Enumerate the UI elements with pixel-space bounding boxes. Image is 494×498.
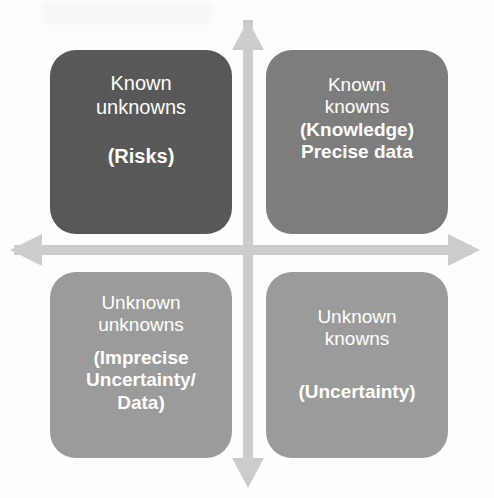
quadrant-unknown-unknowns: Unknown unknowns (Imprecise Uncertainty/… <box>50 272 232 458</box>
quadrant-label-parenthetical: (Imprecise <box>93 347 188 369</box>
quadrant-label-detail: Precise data <box>301 141 413 163</box>
quadrant-line: knowns <box>325 96 389 118</box>
quadrant-known-unknowns: Known unknowns (Risks) <box>50 50 232 234</box>
quadrant-label-parenthetical: Uncertainty/ <box>86 369 196 391</box>
quadrant-line: Known <box>328 74 386 96</box>
quadrant-line: unknowns <box>96 96 186 120</box>
quadrant-line: Unknown <box>101 292 180 314</box>
knowledge-uncertainty-matrix: Known unknowns (Risks) Known knowns (Kno… <box>0 0 494 498</box>
quadrant-line: knowns <box>325 328 389 350</box>
quadrant-known-knowns: Known knowns (Knowledge) Precise data <box>266 50 448 234</box>
quadrant-line: Unknown <box>317 306 396 328</box>
quadrant-unknown-knowns: Unknown knowns (Uncertainty) <box>266 272 448 458</box>
quadrant-label-parenthetical: (Risks) <box>108 145 175 169</box>
quadrant-line: Known <box>110 72 171 96</box>
quadrant-label-parenthetical: (Uncertainty) <box>298 381 415 403</box>
quadrant-line: unknowns <box>98 314 184 336</box>
quadrant-label-parenthetical: Data) <box>117 392 165 414</box>
quadrant-label-parenthetical: (Knowledge) <box>300 119 414 141</box>
